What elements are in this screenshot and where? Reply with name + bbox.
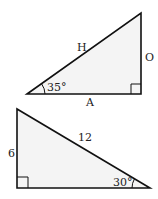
angle-label-2: 30° [113,176,133,189]
vertical-side-label-2: 6 [8,147,15,160]
adjacent-label-1: A [85,96,95,109]
angle-label-1: 35° [47,81,67,94]
hypotenuse-label-2: 12 [78,131,92,144]
diagram-canvas: 35° H O A 30° 12 6 [0,0,158,199]
triangle-2: 30° 12 6 [8,109,150,189]
triangle-1: 35° H O A [27,13,154,109]
hypotenuse-label-1: H [77,41,87,54]
opposite-label-1: O [145,51,154,64]
